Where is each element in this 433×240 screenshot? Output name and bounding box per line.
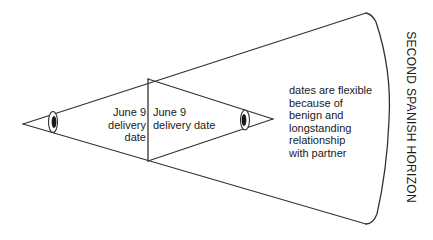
right-section-label: dates are flexible because of benign and… (289, 84, 389, 159)
right-eye-icon (241, 110, 250, 130)
left-section-label: June 9 delivery date (84, 106, 146, 144)
left-eye-icon (49, 112, 58, 133)
middle-section-label: June 9 delivery date (153, 106, 233, 131)
horizon-label: SECOND SPANISH HORIZON (404, 31, 418, 203)
